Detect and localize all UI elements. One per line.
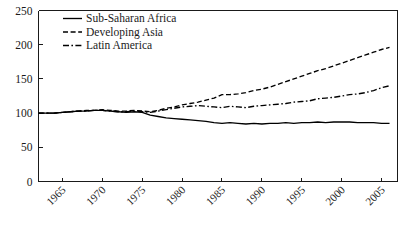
legend-label: Developing Asia (86, 26, 163, 39)
y-tick-label: 200 (15, 39, 33, 51)
line-chart: 050100150200250 196519701975198019851990… (0, 0, 412, 225)
legend-label: Latin America (86, 39, 152, 51)
y-tick-label: 250 (15, 5, 33, 17)
y-tick-label: 0 (27, 176, 33, 188)
legend-label: Sub-Saharan Africa (86, 12, 176, 24)
y-tick-label: 100 (15, 107, 33, 119)
chart-container: 050100150200250 196519701975198019851990… (0, 0, 412, 225)
y-tick-label: 150 (15, 73, 33, 85)
y-tick-label: 50 (21, 141, 33, 153)
